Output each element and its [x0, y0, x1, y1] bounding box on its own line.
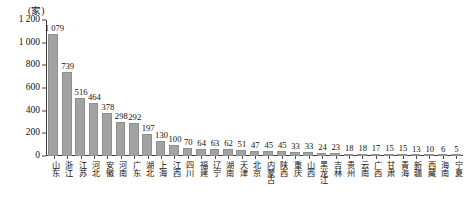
x-axis-category-label: 河北	[90, 161, 99, 176]
bar-slot[interactable]: 64	[195, 20, 208, 156]
x-axis-category-label: 上海	[157, 161, 166, 176]
bar-slot[interactable]: 5	[450, 20, 463, 156]
x-axis-tick-mark	[295, 156, 296, 159]
y-axis-tick-label: 200	[26, 129, 40, 139]
x-axis-category-label: 辽宁	[210, 161, 219, 176]
x-axis-tick-mark	[429, 156, 430, 159]
x-axis-category-label: 黑龙江	[318, 161, 327, 184]
x-axis-category-label: 江苏	[76, 161, 85, 176]
x-axis-category-label: 湖南	[224, 161, 233, 176]
bar[interactable]	[210, 149, 220, 156]
x-axis-tick-mark	[349, 156, 350, 159]
bar[interactable]	[169, 145, 179, 156]
bar-value-label: 15	[399, 144, 408, 153]
bar-value-label: 197	[142, 124, 155, 133]
x-axis-category-label: 广东	[130, 161, 139, 176]
x-axis-tick-mark	[456, 156, 457, 159]
bar-value-label: 292	[128, 113, 141, 122]
bar-slot[interactable]: 33	[302, 20, 315, 156]
x-axis-tick-mark	[121, 156, 122, 159]
bar[interactable]	[156, 141, 166, 156]
bar-value-label: 62	[224, 139, 233, 148]
bar-value-label: 15	[385, 144, 394, 153]
bar-slot[interactable]: 45	[275, 20, 288, 156]
x-axis-category-label: 西藏	[425, 161, 434, 176]
x-axis-tick-mark	[309, 156, 310, 159]
x-axis-tick-mark	[362, 156, 363, 159]
x-axis-category-label: 江西	[170, 161, 179, 176]
bar-slot[interactable]: 15	[396, 20, 409, 156]
bar[interactable]	[183, 148, 193, 156]
bar-value-label: 464	[88, 93, 101, 102]
x-axis-category-label: 青海	[398, 161, 407, 176]
x-axis-tick-mark	[94, 156, 95, 159]
x-axis-tick-mark	[282, 156, 283, 159]
bar-value-label: 13	[412, 145, 421, 154]
bar-slot[interactable]: 197	[141, 20, 154, 156]
x-axis-tick-mark	[148, 156, 149, 159]
bar[interactable]	[116, 122, 126, 156]
x-axis-tick-mark	[161, 156, 162, 159]
y-axis-tick-label: 1 200	[19, 15, 40, 25]
bar[interactable]	[75, 98, 85, 156]
bar[interactable]	[62, 72, 72, 156]
bar-slot[interactable]: 1 079	[47, 20, 60, 156]
bar[interactable]	[196, 149, 206, 156]
bar-slot[interactable]: 23	[329, 20, 342, 156]
bar-value-label: 100	[169, 135, 182, 144]
bar-slot[interactable]: 739	[60, 20, 73, 156]
bar-value-label: 45	[264, 141, 273, 150]
bar-slot[interactable]: 17	[369, 20, 382, 156]
x-axis-tick-mark	[403, 156, 404, 159]
y-axis-tick-label: 0	[35, 151, 40, 161]
bar-slot[interactable]: 51	[235, 20, 248, 156]
y-axis-tick-labels: 02004006008001 0001 200	[0, 20, 46, 156]
bar-value-label: 5	[454, 145, 458, 154]
x-axis-category-label: 天津	[237, 161, 246, 176]
x-axis-tick-mark	[255, 156, 256, 159]
bar-slot[interactable]: 464	[87, 20, 100, 156]
bar-slot[interactable]: 45	[262, 20, 275, 156]
bar-value-label: 378	[101, 103, 114, 112]
x-axis-category-label: 湖北	[143, 161, 152, 176]
bar[interactable]	[129, 123, 139, 156]
bar[interactable]	[89, 103, 99, 156]
bar-slot[interactable]: 516	[74, 20, 87, 156]
bar-slot[interactable]: 18	[356, 20, 369, 156]
x-axis-tick-mark	[443, 156, 444, 159]
bar-slot[interactable]: 70	[181, 20, 194, 156]
x-axis-tick-mark	[242, 156, 243, 159]
bar-value-label: 516	[75, 88, 88, 97]
x-axis-tick-mark	[268, 156, 269, 159]
bar-slot[interactable]: 6	[436, 20, 449, 156]
bar-slot[interactable]: 13	[409, 20, 422, 156]
bar-slot[interactable]: 130	[154, 20, 167, 156]
bar[interactable]	[102, 113, 112, 156]
bar[interactable]	[142, 134, 152, 156]
x-axis-category-label: 新疆	[412, 161, 421, 176]
x-axis-category-label: 山西	[304, 161, 313, 176]
bar-slot[interactable]: 378	[101, 20, 114, 156]
bar-value-label: 739	[61, 62, 74, 71]
x-axis-tick-mark	[416, 156, 417, 159]
bar-slot[interactable]: 10	[423, 20, 436, 156]
bar-slot[interactable]: 18	[342, 20, 355, 156]
bar-slot[interactable]: 63	[208, 20, 221, 156]
bar-slot[interactable]: 62	[221, 20, 234, 156]
x-axis-category-label: 甘肃	[385, 161, 394, 176]
bar-value-label: 17	[372, 144, 381, 153]
bar-slot[interactable]: 292	[128, 20, 141, 156]
y-axis-tick-label: 1 000	[19, 38, 40, 48]
bar-value-label: 24	[318, 143, 327, 152]
x-axis-category-label: 宁夏	[452, 161, 461, 176]
bar-slot[interactable]: 47	[248, 20, 261, 156]
bar-slot[interactable]: 298	[114, 20, 127, 156]
bar[interactable]	[48, 34, 58, 156]
bar[interactable]	[223, 149, 233, 156]
bar-slot[interactable]: 15	[382, 20, 395, 156]
bar-slot[interactable]: 100	[168, 20, 181, 156]
bar-slot[interactable]: 33	[289, 20, 302, 156]
bar-slot[interactable]: 24	[315, 20, 328, 156]
x-axis-category-label: 福建	[197, 161, 206, 176]
x-axis-tick-mark	[188, 156, 189, 159]
